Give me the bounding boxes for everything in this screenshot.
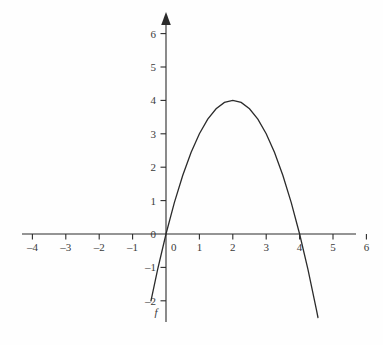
x-tick-label-2: 2: [230, 241, 236, 253]
x-tick-label-6: 6: [364, 241, 370, 253]
y-tick-label-4: 4: [151, 94, 157, 106]
x-tick-label--3: –3: [59, 241, 72, 253]
x-tick-label-0: 0: [171, 241, 177, 253]
y-tick-label-0: 0: [151, 228, 157, 240]
x-tick-label-1: 1: [197, 241, 203, 253]
y-tick-label-2: 2: [151, 161, 157, 173]
graph-figure: –4–3–2–10123456 6543210–1–2 f: [0, 0, 383, 345]
y-tick-label-3: 3: [151, 128, 157, 140]
x-tick-label--4: –4: [26, 241, 39, 253]
y-tick-label-1: 1: [151, 195, 157, 207]
x-tick-label-5: 5: [330, 241, 336, 253]
parabola-plot: –4–3–2–10123456 6543210–1–2 f: [0, 0, 383, 345]
y-tick-label-5: 5: [151, 61, 157, 73]
y-tick-label-6: 6: [151, 28, 157, 40]
x-tick-label-3: 3: [263, 241, 269, 253]
x-tick-label--1: –1: [126, 241, 138, 253]
y-tick-label--1: –1: [144, 261, 156, 273]
plot-background: [0, 0, 383, 345]
x-tick-label--2: –2: [93, 241, 105, 253]
